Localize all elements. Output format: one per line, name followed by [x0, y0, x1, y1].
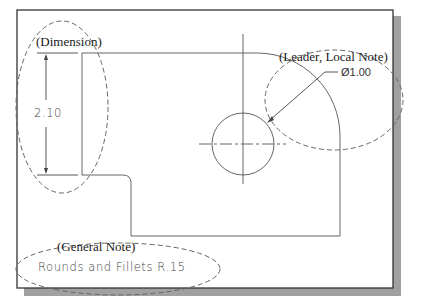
label-leader-local-note: (Leader, Local Note): [279, 49, 388, 64]
general-note-text: Rounds and Fillets R.15: [38, 260, 186, 274]
dimension-value: 2.10: [34, 106, 62, 120]
diameter-callout: Ø1.00: [341, 66, 371, 78]
label-general-note: (General Note): [57, 239, 135, 254]
drawing-canvas: 2.10 Ø1.00 (Dimension) (Leader, Local No…: [0, 0, 421, 303]
label-dimension: (Dimension): [36, 34, 102, 49]
